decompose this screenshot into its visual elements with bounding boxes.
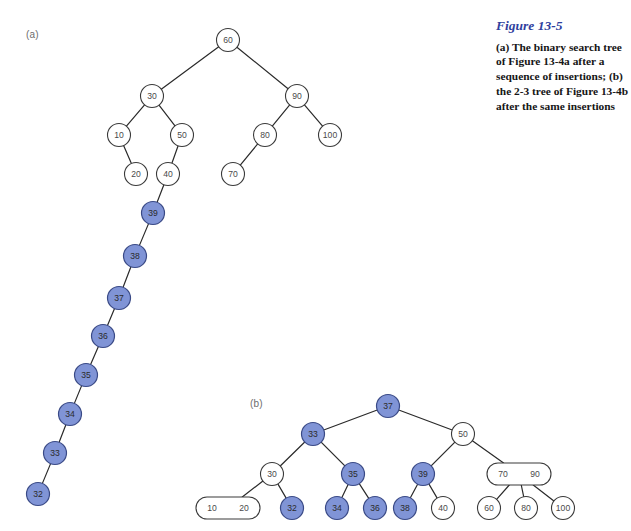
node-value: 20 [239,503,249,513]
tree-edge [533,485,554,501]
tree-node-40: 40 [157,163,180,186]
tree-node-39: 39 [142,202,165,225]
tree-node-38: 38 [124,245,147,268]
node-value: 50 [458,429,468,439]
node-value: 34 [65,409,75,419]
tree-node-34: 34 [326,497,349,520]
node-value: 60 [484,503,494,513]
figure-caption-title: Figure 13-5 [496,18,631,34]
node-value: 90 [530,469,540,479]
tree-edge [159,105,175,126]
node-value: 100 [323,130,338,140]
node-value: 32 [287,503,297,513]
tree-edge [324,410,377,430]
tree-node-33: 33 [302,423,325,446]
edges-layer [42,47,554,501]
tree-node-90: 90 [286,85,309,108]
tree-edge [321,442,345,466]
tree-node-50: 50 [452,423,475,446]
node-value: 50 [177,130,187,140]
tree-node-35: 35 [75,364,98,387]
figure-caption-body: (a) The binary search tree of Figure 13-… [496,40,631,114]
tree-node-10: 10 [108,124,131,147]
figure-caption: Figure 13-5 (a) The binary search tree o… [496,18,631,114]
tree-node-70: 70 [222,163,245,186]
tree-node-50: 50 [171,124,194,147]
tree-node-37: 37 [377,395,400,418]
node-value: 10 [114,130,124,140]
tree-edge [157,185,164,203]
tree-edge [91,347,99,365]
tree-node-80: 80 [515,497,538,520]
tree-node-39: 39 [412,463,435,486]
tree-node-38: 38 [394,497,417,520]
tree-edge [410,484,417,498]
panel-a-label: (a) [26,29,39,40]
tree-node-10-20: 1020 [196,497,260,519]
tree-edge [472,441,503,463]
node-value: 38 [130,251,140,261]
tree-node-32: 32 [281,497,304,520]
tree-node-32: 32 [27,483,50,506]
tree-edge [272,105,289,126]
node-value: 100 [556,503,571,513]
node-value: 70 [498,469,508,479]
figure-13-5: 6030901050801002040703938373635343332373… [0,0,631,531]
node-value: 40 [438,503,448,513]
node-value: 30 [267,469,277,479]
node-value: 37 [383,401,393,411]
node-value: 40 [163,169,173,179]
tree-edge [242,481,263,497]
node-value: 30 [147,91,157,101]
node-value: 36 [98,331,108,341]
node-value: 39 [148,208,158,218]
tree-node-33: 33 [44,442,67,465]
node-value: 32 [33,489,43,499]
node-shape-oval [487,463,551,485]
tree-edge [240,144,257,165]
tree-node-35: 35 [342,463,365,486]
tree-edge [278,484,286,498]
node-value: 33 [308,429,318,439]
tree-edge [431,442,455,466]
tree-edge [237,47,288,89]
node-value: 34 [332,503,342,513]
node-value: 35 [348,469,358,479]
tree-node-100: 100 [319,124,342,147]
tree-edge [124,146,132,164]
tree-edge [172,146,178,163]
tree-node-70-90: 7090 [487,463,551,485]
tree-edge [429,484,437,498]
tree-edge [359,484,369,499]
tree-edge [139,224,148,246]
tree-edge [42,464,50,484]
tree-node-34: 34 [59,403,82,426]
tree-node-100: 100 [552,497,575,520]
node-shape-oval [196,497,260,519]
node-value: 38 [400,503,410,513]
tree-node-60: 60 [217,29,240,52]
tree-node-60: 60 [478,497,501,520]
tree-node-20: 20 [125,163,148,186]
node-value: 80 [521,503,531,513]
tree-edge [342,484,348,497]
node-value: 20 [131,169,141,179]
tree-node-30: 30 [261,463,284,486]
node-value: 35 [81,370,91,380]
tree-edge [399,410,452,430]
node-value: 10 [207,503,217,513]
tree-edge [74,386,81,404]
tree-edge [161,47,218,89]
tree-node-80: 80 [254,124,277,147]
node-value: 39 [418,469,428,479]
tree-node-36: 36 [92,325,115,348]
node-value: 37 [114,293,124,303]
tree-edge [59,425,66,443]
tree-node-36: 36 [364,497,387,520]
panel-b-label: (b) [250,398,263,409]
tree-edge [304,105,322,126]
tree-edge [107,309,114,326]
node-value: 60 [223,35,233,45]
node-value: 90 [292,91,302,101]
tree-edge [123,267,131,288]
